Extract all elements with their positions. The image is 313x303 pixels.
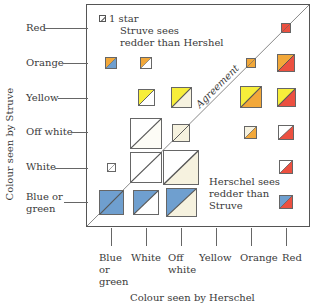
note-line: Herschel sees bbox=[209, 176, 280, 188]
note-line: Struve sees bbox=[120, 25, 224, 37]
cell-white-blue bbox=[107, 163, 116, 172]
cell-blue-white bbox=[133, 190, 159, 215]
y-tick-line bbox=[55, 168, 88, 169]
note-line: redder than Hershel bbox=[120, 37, 224, 49]
cell-blue-red bbox=[279, 195, 293, 209]
cell-white-off-white bbox=[163, 150, 199, 185]
cell-orange-orange bbox=[246, 58, 256, 68]
x-tick-yellow: Yellow bbox=[199, 252, 232, 264]
y-tick-white: White bbox=[26, 161, 56, 173]
cell-off-white-red bbox=[278, 125, 294, 140]
y-axis-title: Colour seen by Struve bbox=[4, 91, 15, 201]
y-tick-line bbox=[64, 202, 88, 203]
cell-white-white bbox=[130, 152, 162, 183]
x-tick-orange: Orange bbox=[240, 252, 278, 264]
x-tick-blue: Blue or green bbox=[99, 252, 128, 288]
y-tick-yellow: Yellow bbox=[26, 92, 59, 104]
x-tick-line bbox=[146, 228, 147, 246]
y-tick-blue-line2: green bbox=[26, 203, 63, 215]
cell-off-white-off-white bbox=[172, 124, 190, 142]
cell-blue-blue bbox=[99, 190, 124, 215]
y-tick-line bbox=[63, 63, 88, 64]
x-tick-line bbox=[181, 228, 182, 246]
cell-orange-white bbox=[140, 57, 152, 69]
legend-square-icon bbox=[99, 15, 106, 22]
x-tick-line bbox=[251, 228, 252, 246]
note-herschel-redder: Herschel sees redder than Struve bbox=[209, 176, 280, 212]
x-tick-off-line2: white bbox=[168, 264, 196, 276]
cell-yellow-orange bbox=[240, 86, 262, 108]
cell-orange-red bbox=[277, 54, 295, 72]
y-tick-red: Red bbox=[26, 22, 46, 34]
y-tick-blue: Blue or green bbox=[26, 191, 63, 215]
x-tick-blue-line2: or bbox=[99, 264, 128, 276]
x-tick-off-line1: Off bbox=[168, 252, 196, 264]
x-tick-white: White bbox=[131, 252, 161, 264]
note-line: redder than bbox=[209, 188, 280, 200]
cell-yellow-white bbox=[138, 89, 155, 106]
legend: 1 star bbox=[99, 13, 138, 24]
x-tick-off-white: Off white bbox=[168, 252, 196, 276]
cell-blue-off-white bbox=[166, 188, 197, 217]
x-tick-blue-line3: green bbox=[99, 276, 128, 288]
x-tick-line bbox=[286, 228, 287, 246]
x-tick-blue-line1: Blue bbox=[99, 252, 128, 264]
cell-yellow-red bbox=[277, 88, 296, 107]
x-tick-line bbox=[111, 228, 112, 246]
note-line: Struve bbox=[209, 200, 280, 212]
note-struve-redder: Struve sees redder than Hershel bbox=[120, 25, 224, 49]
x-tick-red: Red bbox=[282, 252, 302, 264]
cell-orange-blue bbox=[105, 57, 117, 69]
cell-off-white-orange bbox=[244, 126, 257, 139]
cell-red-red bbox=[281, 23, 291, 33]
y-tick-off-white: Off white bbox=[26, 126, 73, 138]
legend-label: 1 star bbox=[109, 13, 138, 24]
cell-off-white-white bbox=[130, 118, 162, 149]
x-axis-title: Colour seen by Herschel bbox=[130, 292, 255, 303]
y-tick-line bbox=[71, 132, 88, 133]
cell-white-red bbox=[279, 160, 293, 174]
y-tick-blue-line1: Blue or bbox=[26, 191, 63, 203]
cell-yellow-off-white bbox=[171, 87, 192, 108]
x-tick-line bbox=[216, 228, 217, 246]
y-tick-line bbox=[44, 28, 88, 29]
y-tick-orange: Orange bbox=[26, 57, 64, 69]
y-tick-line bbox=[58, 98, 88, 99]
